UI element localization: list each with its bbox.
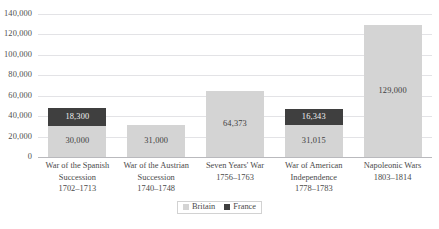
- category-label-line: Independence: [274, 172, 353, 184]
- y-axis-tick-label: 100,000: [0, 51, 32, 59]
- bar-group[interactable]: 31,01516,343: [285, 109, 343, 157]
- bar-segment-britain[interactable]: 64,373: [206, 91, 264, 157]
- category-label: Seven Years' War1756–1763: [196, 160, 275, 183]
- bar-value-label: 30,000: [65, 137, 89, 145]
- axis-baseline: [38, 157, 432, 158]
- category-label-line: 1778–1783: [274, 183, 353, 195]
- legend-label: France: [233, 203, 256, 211]
- bar-segment-britain[interactable]: 30,000: [48, 126, 106, 157]
- y-axis-tick-labels: 020,00040,00060,00080,000100,000120,0001…: [0, 14, 32, 157]
- category-label-line: 1803–1814: [353, 172, 432, 184]
- bar-group[interactable]: 30,00018,300: [48, 108, 106, 157]
- bar-value-label: 31,000: [144, 137, 168, 145]
- y-axis-tick-label: 140,000: [0, 10, 32, 18]
- category-label: War of the AustrianSuccession1740–1748: [117, 160, 196, 195]
- bar-segment-britain[interactable]: 129,000: [364, 25, 422, 157]
- category-label-line: Succession: [38, 172, 117, 184]
- legend-box: BritainFrance: [177, 201, 262, 214]
- category-label-line: War of American: [274, 160, 353, 172]
- y-axis-tick-label: 60,000: [0, 92, 32, 100]
- y-axis-tick-label: 20,000: [0, 132, 32, 140]
- x-axis-category-labels: War of the SpanishSuccession1702–1713War…: [38, 160, 432, 200]
- category-label-line: War of the Austrian: [117, 160, 196, 172]
- y-axis-tick-label: 40,000: [0, 112, 32, 120]
- bar-value-label: 64,373: [223, 120, 247, 128]
- category-label-line: 1702–1713: [38, 183, 117, 195]
- legend: BritainFrance: [0, 201, 439, 214]
- y-axis-tick-label: 120,000: [0, 30, 32, 38]
- bar-value-label: 31,015: [302, 137, 326, 145]
- bar-group[interactable]: 129,000: [364, 25, 422, 157]
- bar-group[interactable]: 64,373: [206, 91, 264, 157]
- bar-value-label: 129,000: [378, 87, 406, 95]
- legend-swatch-france: [224, 204, 230, 210]
- category-label-line: Seven Years' War: [196, 160, 275, 172]
- y-axis-tick-label: 80,000: [0, 71, 32, 79]
- stacked-bar-chart: 020,00040,00060,00080,000100,000120,0001…: [0, 0, 439, 229]
- category-label: War of AmericanIndependence1778–1783: [274, 160, 353, 195]
- bar-segment-france[interactable]: 16,343: [285, 109, 343, 126]
- category-label-line: Succession: [117, 172, 196, 184]
- category-label-line: War of the Spanish: [38, 160, 117, 172]
- legend-swatch-britain: [183, 204, 189, 210]
- legend-item-britain[interactable]: Britain: [183, 203, 215, 211]
- bar-segment-france[interactable]: 18,300: [48, 108, 106, 127]
- category-label-line: Napoleonic Wars: [353, 160, 432, 172]
- plot-area: 30,00018,30031,00064,37331,01516,343129,…: [38, 14, 432, 157]
- category-label-line: 1756–1763: [196, 172, 275, 184]
- y-axis-tick-label: 0: [0, 153, 32, 161]
- bar-value-label: 18,300: [65, 113, 89, 121]
- category-label: War of the SpanishSuccession1702–1713: [38, 160, 117, 195]
- bar-value-label: 16,343: [302, 113, 326, 121]
- bars-layer: 30,00018,30031,00064,37331,01516,343129,…: [38, 14, 432, 157]
- bar-group[interactable]: 31,000: [127, 125, 185, 157]
- bar-segment-britain[interactable]: 31,015: [285, 125, 343, 157]
- bar-segment-britain[interactable]: 31,000: [127, 125, 185, 157]
- category-label-line: 1740–1748: [117, 183, 196, 195]
- category-label: Napoleonic Wars1803–1814: [353, 160, 432, 183]
- legend-label: Britain: [192, 203, 215, 211]
- legend-item-france[interactable]: France: [224, 203, 256, 211]
